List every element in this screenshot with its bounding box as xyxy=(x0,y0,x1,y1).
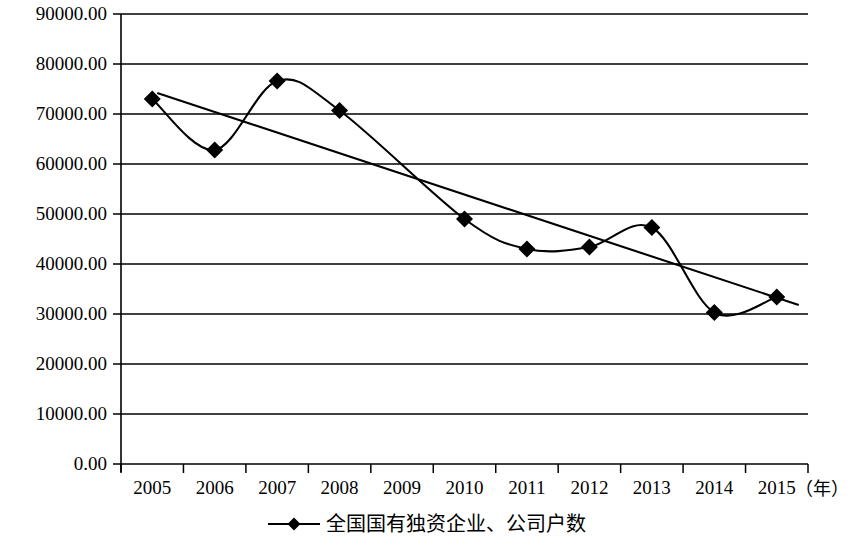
data-point-marker xyxy=(269,73,286,90)
data-point-marker xyxy=(518,241,535,258)
trendline xyxy=(157,93,799,305)
x-axis-tick-label: 2010 xyxy=(433,478,495,497)
y-axis-tick-label: 70000.00 xyxy=(0,104,107,123)
x-axis-tick-label: 2007 xyxy=(246,478,308,497)
x-axis-tick-label: 2009 xyxy=(371,478,433,497)
gridlines-group xyxy=(121,14,808,464)
legend-entry-label: 全国国有独资企业、公司户数 xyxy=(326,513,586,535)
y-axis-tick-label: 60000.00 xyxy=(0,154,107,173)
y-axis-tick-label: 40000.00 xyxy=(0,254,107,273)
y-axis-tick-label: 80000.00 xyxy=(0,54,107,73)
x-axis-unit-label: （年） xyxy=(795,480,849,498)
data-point-marker xyxy=(643,219,660,236)
x-axis-tick-label: 2006 xyxy=(183,478,245,497)
y-axis-tick-label: 20000.00 xyxy=(0,354,107,373)
chart-legend: 全国国有独资企业、公司户数 xyxy=(0,508,854,540)
chart-canvas xyxy=(0,0,854,540)
data-point-marker xyxy=(768,289,785,306)
y-axis-tick-label: 50000.00 xyxy=(0,204,107,223)
legend-diamond-line-icon xyxy=(268,516,320,532)
y-axis-tick-label: 30000.00 xyxy=(0,304,107,323)
x-axis-tick-label: 2011 xyxy=(496,478,558,497)
x-axis-ticks-group xyxy=(113,14,808,473)
x-axis-tick-label: 2013 xyxy=(621,478,683,497)
x-axis-tick-label: 2005 xyxy=(121,478,183,497)
series-markers-group xyxy=(144,73,786,322)
y-axis-tick-label: 10000.00 xyxy=(0,404,107,423)
data-point-marker xyxy=(331,102,348,119)
data-point-marker xyxy=(206,142,223,159)
data-point-marker xyxy=(581,239,598,256)
line-chart: 0.0010000.0020000.0030000.0040000.005000… xyxy=(0,0,854,540)
x-axis-tick-label: 2014 xyxy=(683,478,745,497)
y-axis-tick-label: 90000.00 xyxy=(0,4,107,23)
y-axis-tick-label: 0.00 xyxy=(0,454,107,473)
x-axis-tick-label: 2012 xyxy=(558,478,620,497)
x-axis-tick-label: 2008 xyxy=(308,478,370,497)
